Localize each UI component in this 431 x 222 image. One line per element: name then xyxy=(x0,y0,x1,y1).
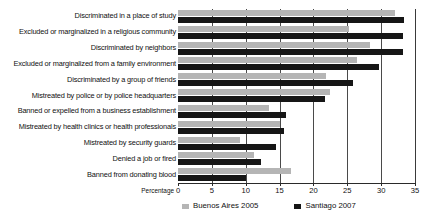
bar-series-b xyxy=(178,175,246,181)
bar-series-a xyxy=(178,89,330,95)
category-label: Mistreated by health clinics or health p… xyxy=(0,123,176,131)
bar-series-b xyxy=(178,49,403,55)
legend-item-series-a: Buenos Aires 2005 xyxy=(182,201,258,211)
x-axis-tick-label: 15 xyxy=(270,186,290,195)
category-label: Mistreated by police or by police headqu… xyxy=(0,92,176,100)
x-axis-tick-label: 30 xyxy=(371,186,391,195)
bar-group xyxy=(178,105,415,121)
bar-series-a xyxy=(178,105,269,111)
chart-legend: Buenos Aires 2005 Santiago 2007 xyxy=(178,199,415,213)
bar-group xyxy=(178,57,415,73)
bar-series-a xyxy=(178,57,357,63)
bar-series-a xyxy=(178,73,326,79)
category-label: Banned from donating blood xyxy=(0,171,176,179)
bar-series-b xyxy=(178,17,404,23)
category-label: Denied a job or fired xyxy=(0,155,176,163)
bar-group xyxy=(178,152,415,168)
bar-group xyxy=(178,10,415,26)
horizontal-bar-chart: Discriminated in a place of studyExclude… xyxy=(0,0,431,222)
bar-series-a xyxy=(178,121,280,127)
category-label: Excluded or marginalized in a religious … xyxy=(0,28,176,36)
bar-group xyxy=(178,26,415,42)
bar-series-a xyxy=(178,26,349,32)
category-label: Excluded or marginalized from a family e… xyxy=(0,60,176,68)
bar-series-b xyxy=(178,96,325,102)
bar-group xyxy=(178,42,415,58)
plot-right-border xyxy=(415,9,416,185)
plot-area xyxy=(178,9,415,183)
legend-label-series-a: Buenos Aires 2005 xyxy=(193,201,258,211)
bar-group xyxy=(178,73,415,89)
x-axis-tick-label: 20 xyxy=(303,186,323,195)
category-axis: Discriminated in a place of studyExclude… xyxy=(0,9,176,183)
bar-series-b xyxy=(178,144,276,150)
legend-label-series-b: Santiago 2007 xyxy=(305,201,355,211)
x-axis-tick-label: 5 xyxy=(202,186,222,195)
bar-series-a xyxy=(178,137,240,143)
bar-series-b xyxy=(178,64,379,70)
legend-swatch-icon-series-a xyxy=(182,204,189,209)
bar-series-a xyxy=(178,152,254,158)
bar-series-a xyxy=(178,168,291,174)
x-axis-title: Percentage xyxy=(118,187,174,195)
bar-group xyxy=(178,89,415,105)
x-axis-tick-label: 10 xyxy=(236,186,256,195)
legend-swatch-icon-series-b xyxy=(294,204,301,209)
x-axis-tick-label: 35 xyxy=(405,186,425,195)
legend-item-series-b: Santiago 2007 xyxy=(294,201,355,211)
bar-series-b xyxy=(178,159,261,165)
bar-series-b xyxy=(178,33,403,39)
category-label: Discriminated by a group of friends xyxy=(0,76,176,84)
category-label: Discriminated in a place of study xyxy=(0,12,176,20)
category-label: Discriminated by neighbors xyxy=(0,44,176,52)
x-axis-tick-label: 25 xyxy=(337,186,357,195)
category-label: Mistreated by security guards xyxy=(0,139,176,147)
category-label: Banned or expelled from a business estab… xyxy=(0,107,176,115)
bar-series-b xyxy=(178,128,284,134)
bar-series-a xyxy=(178,42,370,48)
bar-series-b xyxy=(178,112,286,118)
bar-group xyxy=(178,168,415,184)
bar-group xyxy=(178,121,415,137)
bar-group xyxy=(178,137,415,153)
bar-series-b xyxy=(178,80,353,86)
bar-series-a xyxy=(178,10,395,16)
